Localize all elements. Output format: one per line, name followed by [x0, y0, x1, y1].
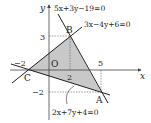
tick-y-3: 3 [40, 33, 45, 42]
tick-x-5: 5 [98, 59, 103, 68]
leader-curve [66, 86, 74, 104]
triangle-region-diagram: y x O 3 −2 −2 2 5 A B C 5x+3y−19=0 3x−4y… [0, 0, 151, 123]
equation-CA: 2x+7y+4=0 [52, 108, 99, 117]
shaded-triangle [28, 36, 101, 92]
tick-x-2: 2 [67, 73, 72, 82]
point-label-C: C [24, 73, 31, 83]
equation-AB: 5x+3y−19=0 [54, 4, 105, 13]
origin-label: O [51, 59, 58, 69]
point-label-B: B [66, 25, 73, 35]
tick-y-neg2: −2 [32, 88, 44, 97]
tick-x-neg2: −2 [14, 59, 26, 68]
y-axis-label: y [39, 3, 46, 13]
point-label-A: A [95, 95, 103, 105]
x-axis-label: x [140, 71, 145, 81]
equation-BC: 3x−4y+6=0 [84, 20, 131, 29]
